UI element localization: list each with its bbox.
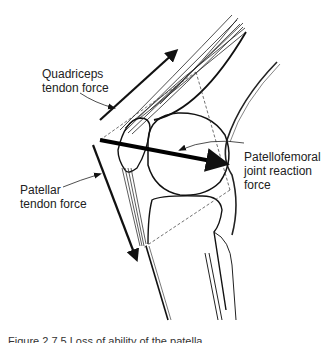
femur-posterior <box>225 62 277 235</box>
label-patellar-tendon-force: Patellar tendon force <box>20 183 87 211</box>
femur-outline <box>154 32 246 120</box>
label-patellofemoral-joint-reaction-force: Patellofemoral joint reaction force <box>244 150 321 192</box>
label-quadriceps-tendon-force: Quadriceps tendon force <box>42 67 109 95</box>
leader-quadriceps <box>80 93 114 108</box>
femoral-condyle <box>148 113 229 195</box>
leader-patellofemoral <box>180 141 244 150</box>
quadriceps-tendon <box>120 15 246 134</box>
figure-caption: Figure 2.7.5 Loss of ability of the pate… <box>8 334 212 343</box>
patellar-tendon <box>122 168 146 246</box>
